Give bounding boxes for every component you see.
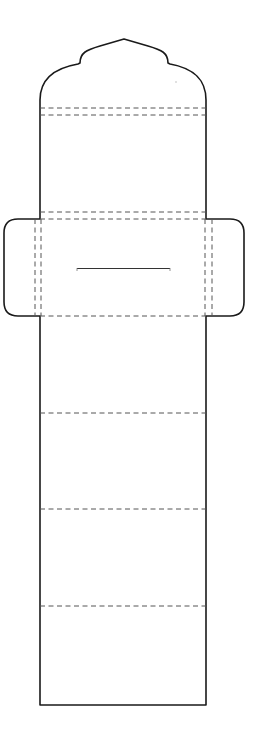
outer-cut-line [4,39,244,705]
scan-speck [175,81,177,83]
die-cut-template [0,0,253,738]
template-canvas [0,0,253,738]
